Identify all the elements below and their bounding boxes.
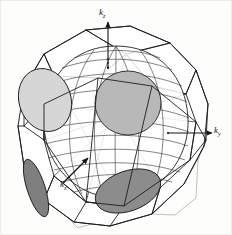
axis-label-ky-subscript: y bbox=[218, 131, 221, 137]
axis-label-kx-subscript: x bbox=[64, 185, 67, 191]
neck-upper-right bbox=[95, 71, 161, 135]
axis-label-kz: kz bbox=[99, 8, 105, 19]
fermi-surface-figure: kz ky kx bbox=[0, 0, 232, 235]
axis-label-ky: ky bbox=[214, 126, 221, 137]
axis-label-kz-subscript: z bbox=[103, 13, 105, 19]
fermi-surface-diagram bbox=[0, 0, 232, 235]
axis-label-kx: kx bbox=[60, 180, 67, 191]
